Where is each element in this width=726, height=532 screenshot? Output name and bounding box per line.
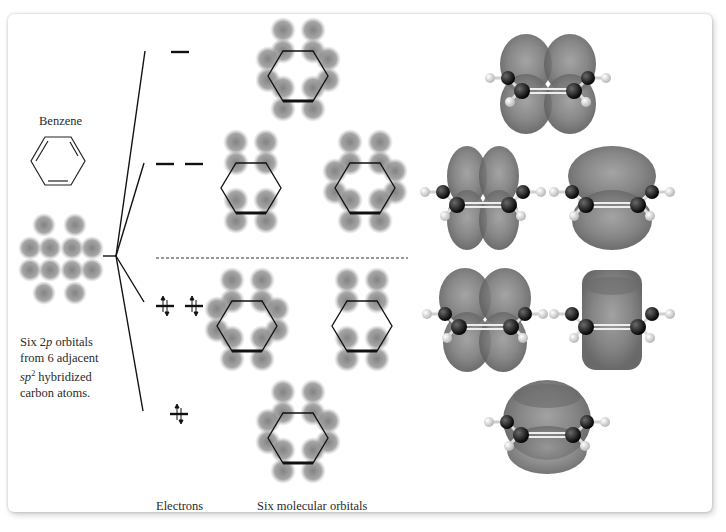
mo-lobes-bonding-a: [204, 267, 290, 372]
surface-bonding-b: [549, 270, 675, 370]
mo-lobes-top: [255, 17, 341, 122]
surface-lowest: [484, 380, 610, 474]
surface-bonding-a: [422, 268, 548, 372]
electron-arrows: [161, 296, 198, 424]
surface-antibonding-a: [420, 146, 546, 250]
mo-lobes-lowest: [255, 379, 341, 484]
surface-top: [485, 34, 611, 134]
mo-lobes-antibonding-a: [221, 129, 281, 234]
correlation-lines: [103, 51, 145, 411]
benzene-structure: [31, 137, 85, 185]
energy-levels: [156, 52, 203, 414]
surface-antibonding-b: [549, 146, 675, 250]
mo-lobes-antibonding-b: [322, 129, 408, 234]
mo-diagram: [8, 14, 712, 512]
atomic-p-orbitals: [18, 213, 104, 305]
mo-lobes-bonding-b: [332, 267, 392, 372]
figure-panel: Benzene Six 2p orbitals from 6 adjacent …: [8, 14, 712, 512]
